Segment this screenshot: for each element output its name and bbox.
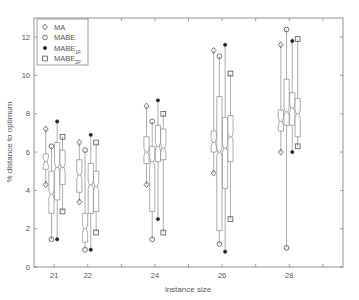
box xyxy=(278,110,283,131)
star-marker-icon xyxy=(223,43,226,46)
box xyxy=(55,143,60,200)
legend-label-mabe: MABE xyxy=(54,33,75,42)
x-tick-label: 24 xyxy=(151,271,159,280)
box xyxy=(94,171,99,211)
legend: MAMABEMABE1FMABE2F xyxy=(37,19,88,65)
legend-subscript: 1F xyxy=(75,49,81,55)
star-marker-icon xyxy=(291,39,294,42)
star-marker-icon xyxy=(156,217,159,220)
star-marker-icon xyxy=(223,250,226,253)
y-tick-label: 6 xyxy=(26,148,30,157)
boxplot-chart: 2122242628024681012 MAMABEMABE1FMABE2F i… xyxy=(0,0,359,300)
star-marker-icon xyxy=(55,120,58,123)
x-tick-label: 21 xyxy=(50,271,58,280)
y-axis-label: % distance to optimum xyxy=(5,101,14,182)
box xyxy=(295,98,300,136)
star-marker-icon xyxy=(156,99,159,102)
box xyxy=(284,79,289,125)
star-marker-icon xyxy=(291,150,294,153)
x-tick-label: 22 xyxy=(84,271,92,280)
box xyxy=(211,131,216,152)
legend-label-ma: MA xyxy=(54,23,65,32)
box xyxy=(82,213,87,242)
box xyxy=(155,125,160,161)
x-tick-label: 26 xyxy=(218,271,226,280)
star-marker-icon xyxy=(89,133,92,136)
box xyxy=(217,97,222,231)
y-tick-label: 10 xyxy=(22,71,30,80)
star-marker-icon xyxy=(89,248,92,251)
series-mabe-2f xyxy=(60,37,300,235)
legend-subscript: 2F xyxy=(75,59,81,65)
box xyxy=(49,171,54,213)
x-tick-label: 28 xyxy=(285,271,293,280)
star-marker-icon xyxy=(55,238,58,241)
box xyxy=(88,164,93,214)
box xyxy=(77,160,82,193)
y-tick-label: 12 xyxy=(22,33,30,42)
series-mabe-1f xyxy=(55,39,295,253)
y-tick-label: 0 xyxy=(26,263,30,272)
box xyxy=(223,118,228,189)
y-tick-label: 8 xyxy=(26,109,30,118)
box xyxy=(161,129,166,160)
box xyxy=(144,137,149,164)
box xyxy=(228,116,233,162)
star-marker-icon xyxy=(43,46,46,49)
y-tick-label: 2 xyxy=(26,224,30,233)
y-tick-label: 4 xyxy=(26,186,30,195)
box xyxy=(150,146,155,211)
x-axis-label: instance size xyxy=(165,285,212,294)
box xyxy=(290,93,295,126)
